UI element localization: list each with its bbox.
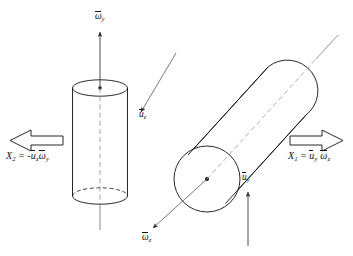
equation-left-lhs-subscript: 2 bbox=[12, 155, 16, 162]
overbar-icon bbox=[320, 150, 326, 151]
u-z-subscript: z bbox=[144, 113, 147, 120]
equation-right-equals: = bbox=[301, 150, 307, 161]
label-u-z: uz bbox=[139, 110, 146, 120]
mechanics-diagram: ωy uz ωz uy X2 = -uzωy X1 = uy ωz bbox=[0, 0, 353, 256]
equation-right-factor1-subscript: y bbox=[314, 155, 317, 162]
block-arrow-left bbox=[10, 130, 63, 151]
overbar-icon bbox=[139, 109, 143, 110]
equation-right-lhs-subscript: 1 bbox=[294, 155, 298, 162]
diagram-canvas bbox=[0, 0, 353, 256]
equation-right: X1 = uy ωz bbox=[288, 151, 330, 163]
overbar-icon bbox=[309, 150, 313, 151]
u-y-symbol: u bbox=[242, 173, 247, 183]
u-y-subscript: y bbox=[247, 176, 250, 183]
omega-y-subscript: y bbox=[102, 15, 105, 22]
omega-z-symbol: ω bbox=[142, 233, 149, 243]
block-arrow-right bbox=[290, 130, 343, 151]
overbar-icon bbox=[242, 172, 246, 173]
overbar-icon bbox=[142, 232, 148, 233]
equation-right-factor2: ω bbox=[320, 151, 327, 161]
equation-right-factor2-subscript: z bbox=[328, 155, 331, 162]
equation-left-factor1: u bbox=[31, 151, 36, 161]
overbar-icon bbox=[39, 150, 45, 151]
u-z-arrow bbox=[141, 53, 176, 112]
u-z-symbol: u bbox=[139, 110, 144, 120]
label-u-y: uy bbox=[242, 173, 250, 183]
equation-left-factor2: ω bbox=[39, 151, 46, 161]
omega-z-subscript: z bbox=[149, 236, 152, 243]
omega-y-symbol: ω bbox=[95, 12, 102, 22]
label-omega-z: ωz bbox=[142, 233, 151, 243]
equation-left: X2 = -uzωy bbox=[6, 151, 49, 163]
label-omega-y: ωy bbox=[95, 12, 105, 22]
overbar-icon bbox=[95, 11, 101, 12]
equation-left-equals: = bbox=[19, 150, 25, 161]
equation-left-factor2-subscript: y bbox=[46, 155, 49, 162]
overbar-icon bbox=[31, 150, 35, 151]
equation-right-factor1: u bbox=[309, 151, 314, 161]
